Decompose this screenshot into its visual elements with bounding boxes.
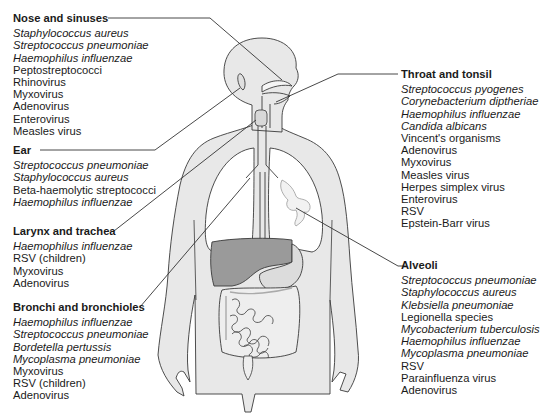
pathogen-item: Enterovirus (13, 113, 149, 125)
pathogen-item: Staphylococcus aureus (13, 27, 149, 39)
group-ear: Ear Streptococcus pneumoniae Staphylococ… (13, 144, 156, 208)
pathogen-item: Herpes simplex virus (401, 181, 538, 193)
pathogen-list: Streptococcus pyogenes Corynebacterium d… (401, 83, 538, 229)
group-heading: Larynx and trachea (13, 225, 132, 237)
pathogen-item: Haemophilus influenzae (13, 52, 149, 64)
pathogen-item: Staphylococcus aureus (13, 171, 156, 183)
pathogen-item: Myxovirus (13, 265, 132, 277)
group-heading: Bronchi and bronchioles (13, 301, 149, 313)
pathogen-item: Haemophilus influenzae (401, 108, 538, 120)
pathogen-item: Staphylococcus aureus (401, 286, 540, 298)
pathogen-list: Haemophilus influenzae Streptococcus pne… (13, 316, 149, 401)
pathogen-item: RSV (children) (13, 377, 149, 389)
pathogen-item: Measles virus (13, 125, 149, 137)
pathogen-item: Epstein-Barr virus (401, 217, 538, 229)
group-heading: Throat and tonsil (401, 68, 538, 80)
pathogen-item: Haemophilus influenzae (13, 316, 149, 328)
pathogen-item: Streptococcus pneumoniae (401, 274, 540, 286)
group-heading: Nose and sinuses (13, 12, 149, 24)
pathogen-item: Candida albicans (401, 120, 538, 132)
pathogen-item: Corynebacterium diptheriae (401, 95, 538, 107)
pathogen-item: RSV (401, 360, 540, 372)
pathogen-item: Myxovirus (13, 365, 149, 377)
pathogen-item: RSV (401, 205, 538, 217)
pathogen-item: Bordetella pertussis (13, 341, 149, 353)
pathogen-list: Haemophilus influenzae RSV (children) My… (13, 240, 132, 289)
pathogen-item: Streptococcus pneumoniae (13, 39, 149, 51)
pathogen-item: Beta-haemolytic streptococci (13, 184, 156, 196)
pathogen-item: Adenovirus (401, 144, 538, 156)
group-heading: Alveoli (401, 259, 540, 271)
pathogen-item: Haemophilus influenzae (13, 240, 132, 252)
pathogen-item: Adenovirus (13, 389, 149, 401)
pathogen-item: Streptococcus pneumoniae (13, 328, 149, 340)
pathogen-item: Haemophilus influenzae (401, 335, 540, 347)
pathogen-item: Streptococcus pyogenes (401, 83, 538, 95)
group-larynx-and-trachea: Larynx and trachea Haemophilus influenza… (13, 225, 132, 289)
pathogen-item: Mycoplasma pneumoniae (401, 347, 540, 359)
pathogen-item: Measles virus (401, 169, 538, 181)
pathogen-list: Staphylococcus aureus Streptococcus pneu… (13, 27, 149, 137)
pathogen-item: Parainfluenza virus (401, 372, 540, 384)
pathogen-list: Streptococcus pneumoniae Staphylococcus … (401, 274, 540, 396)
pathogen-item: Streptococcus pneumoniae (13, 159, 156, 171)
group-heading: Ear (13, 144, 156, 156)
pathogen-item: Myxovirus (13, 88, 149, 100)
pathogen-item: Myxovirus (401, 156, 538, 168)
pathogen-item: Klebsiella pneumoniae (401, 299, 540, 311)
pathogen-item: Adenovirus (401, 384, 540, 396)
pathogen-list: Streptococcus pneumoniae Staphylococcus … (13, 159, 156, 208)
pathogen-item: RSV (children) (13, 252, 132, 264)
pathogen-item: Mycobacterium tuberculosis (401, 323, 540, 335)
group-bronchi-and-bronchioles: Bronchi and bronchioles Haemophilus infl… (13, 301, 149, 402)
group-throat-and-tonsil: Throat and tonsil Streptococcus pyogenes… (401, 68, 538, 230)
pathogen-item: Enterovirus (401, 193, 538, 205)
pathogen-item: Rhinovirus (13, 76, 149, 88)
pathogen-item: Haemophilus influenzae (13, 196, 156, 208)
pathogen-item: Peptostreptococci (13, 64, 149, 76)
pathogen-item: Adenovirus (13, 277, 132, 289)
pathogen-item: Adenovirus (13, 100, 149, 112)
pathogen-item: Vincent's organisms (401, 132, 538, 144)
pathogen-item: Legionella species (401, 311, 540, 323)
group-alveoli: Alveoli Streptococcus pneumoniae Staphyl… (401, 259, 540, 396)
group-nose-and-sinuses: Nose and sinuses Staphylococcus aureus S… (13, 12, 149, 137)
pathogen-item: Mycoplasma pneumoniae (13, 353, 149, 365)
